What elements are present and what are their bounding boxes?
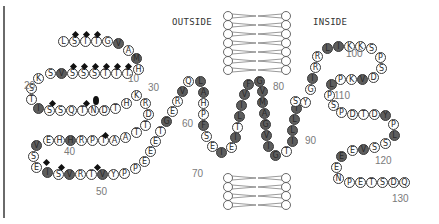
residue: D	[368, 72, 379, 83]
residue: I	[230, 132, 241, 143]
residue: T	[110, 103, 121, 114]
residue: T	[131, 127, 142, 138]
residue-number-label: 100	[346, 48, 363, 59]
residue: A	[198, 87, 209, 98]
residue: E	[145, 146, 156, 157]
residue: A	[120, 132, 131, 143]
residue: R	[172, 96, 183, 107]
protein-topology-diagram: OUTSIDE INSIDE LSITGVAMHTTTSSSVSKSTISSQT…	[0, 0, 439, 224]
residue: E	[31, 162, 42, 173]
residue: S	[369, 142, 380, 153]
outside-label: OUTSIDE	[172, 17, 212, 27]
residue: D	[347, 109, 358, 120]
residue: V	[357, 74, 368, 85]
residue: E	[336, 151, 347, 162]
residue: R	[312, 51, 323, 62]
residue-number-label: 30	[148, 82, 159, 93]
residue: Q	[183, 76, 194, 87]
residue: E	[150, 136, 161, 147]
residue: Q	[399, 177, 410, 188]
residue: V	[257, 86, 268, 97]
residue: P	[336, 107, 347, 118]
residue-number-label: 70	[192, 168, 203, 179]
residue: L	[326, 79, 337, 90]
residue-number-label: 40	[64, 146, 75, 157]
residue: L	[234, 111, 245, 122]
residue-number-label: 90	[305, 135, 316, 146]
residue: E	[355, 177, 366, 188]
residue: I	[33, 103, 44, 114]
residue: S	[55, 105, 66, 116]
glycosylation-blob-icon	[93, 96, 99, 105]
residue: G	[161, 116, 172, 127]
residue-number-label: 130	[392, 193, 409, 204]
residue: T	[358, 109, 369, 120]
residue: P	[388, 119, 399, 130]
residue: Q	[66, 105, 77, 116]
residue: H	[54, 135, 65, 146]
residue: Y	[300, 97, 311, 108]
residue: D	[99, 105, 110, 116]
residue: V	[97, 169, 108, 180]
residue: L	[58, 36, 69, 47]
residue: S	[44, 105, 55, 116]
residue: S	[376, 63, 387, 74]
residue: T	[140, 120, 151, 131]
residue: V	[56, 68, 67, 79]
membrane-top	[222, 10, 292, 78]
residue: E	[347, 145, 358, 156]
residue: A	[109, 135, 120, 146]
residue: T	[155, 126, 166, 137]
residue: I	[307, 73, 318, 84]
residue: Y	[108, 169, 119, 180]
inside-label: INSIDE	[313, 17, 347, 27]
residue: T	[281, 146, 292, 157]
residue: V	[239, 89, 250, 100]
membrane-bottom	[222, 172, 292, 216]
residue-number-label: 60	[182, 118, 193, 129]
residue: D	[369, 109, 380, 120]
residue: L	[322, 43, 333, 54]
residue: T	[232, 122, 243, 133]
residue: H	[121, 98, 132, 109]
residue: D	[143, 109, 154, 120]
residue: S	[28, 151, 39, 162]
residue: E	[139, 156, 150, 167]
residue: P	[119, 168, 130, 179]
residue: T	[86, 169, 97, 180]
residue: V	[177, 86, 188, 97]
residue: R	[76, 135, 87, 146]
residue: N	[333, 173, 344, 184]
residue: K	[346, 74, 357, 85]
glycosylation-diamond-icon	[42, 158, 49, 165]
residue: L	[287, 125, 298, 136]
residue: S	[380, 138, 391, 149]
residue: S	[45, 68, 56, 79]
residue: I	[42, 167, 53, 178]
residue: S	[290, 96, 301, 107]
residue: L	[289, 114, 300, 125]
residue: V	[261, 130, 272, 141]
residue: S	[366, 43, 377, 54]
residue: R	[140, 98, 151, 109]
residue: V	[64, 169, 75, 180]
residue-number-label: 110	[334, 90, 350, 101]
residue-number-label: 50	[96, 186, 107, 197]
residue: G	[270, 150, 281, 161]
residue: G	[102, 36, 113, 47]
residue: F	[198, 120, 209, 131]
residue: V	[358, 144, 369, 155]
left-border-line	[3, 6, 5, 218]
residue: F	[243, 79, 254, 90]
residue: V	[113, 38, 124, 49]
residue: L	[389, 130, 400, 141]
residue: R	[310, 62, 321, 73]
residue: H	[65, 135, 76, 146]
residue: V	[31, 140, 42, 151]
residue: I	[333, 41, 344, 52]
residue: E	[226, 142, 237, 153]
residue: R	[75, 169, 86, 180]
residue: I	[287, 136, 298, 147]
residue: E	[43, 135, 54, 146]
residue: E	[331, 162, 342, 173]
